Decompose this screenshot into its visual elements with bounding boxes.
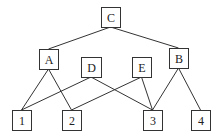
hierarchy-diagram: CABDE1234 bbox=[0, 0, 221, 137]
node-E: E bbox=[133, 58, 152, 78]
node-label: 1 bbox=[19, 114, 25, 128]
node-2: 2 bbox=[63, 111, 82, 131]
node-1: 1 bbox=[13, 111, 32, 131]
node-label: 4 bbox=[198, 114, 204, 128]
edge-E-2 bbox=[72, 77, 142, 110]
edge-A-2 bbox=[49, 69, 72, 110]
node-label: A bbox=[45, 53, 54, 67]
node-A: A bbox=[40, 50, 59, 70]
node-B: B bbox=[170, 49, 189, 69]
edge-B-4 bbox=[179, 68, 201, 110]
node-label: E bbox=[138, 61, 145, 75]
node-label: 2 bbox=[69, 114, 75, 128]
node-C: C bbox=[102, 8, 121, 28]
node-label: 3 bbox=[150, 114, 156, 128]
nodes-layer: CABDE1234 bbox=[13, 8, 211, 131]
edge-B-3 bbox=[153, 68, 179, 110]
node-D: D bbox=[82, 58, 102, 78]
node-label: B bbox=[175, 52, 183, 66]
node-label: D bbox=[87, 61, 96, 75]
node-4: 4 bbox=[192, 111, 211, 131]
node-label: C bbox=[107, 11, 115, 25]
edge-C-B bbox=[111, 27, 179, 48]
edge-C-A bbox=[49, 27, 111, 49]
node-3: 3 bbox=[144, 111, 163, 131]
